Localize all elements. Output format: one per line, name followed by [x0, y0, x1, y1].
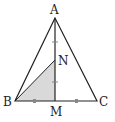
- label-c: C: [99, 95, 108, 109]
- label-n: N: [58, 54, 69, 68]
- triangle-diagram: A B C M N: [0, 0, 115, 122]
- label-a: A: [49, 3, 59, 17]
- label-b: B: [3, 95, 12, 109]
- tick-bm: [33, 99, 36, 103]
- tick-mc: [75, 99, 78, 103]
- label-m: M: [50, 105, 62, 119]
